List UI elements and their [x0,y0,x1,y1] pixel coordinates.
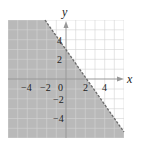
y-tick-label: 4 [57,35,62,46]
y-tick-label: −4 [53,113,64,124]
x-tick-label: −2 [40,82,51,93]
x-tick-label: 0 [58,82,63,93]
x-axis-arrow-icon [117,77,124,82]
x-tick-label: 4 [102,82,107,93]
x-tick-label: 2 [83,82,88,93]
inequality-graph: x y −4 −2 0 2 4 4 2 −2 −4 [0,0,141,146]
x-tick-label: −4 [21,82,32,93]
y-tick-label: −2 [53,94,64,105]
y-tick-label: 2 [57,54,62,65]
y-axis-arrow-icon [64,21,69,28]
x-axis-label: x [126,72,133,86]
y-axis-label: y [61,5,68,19]
